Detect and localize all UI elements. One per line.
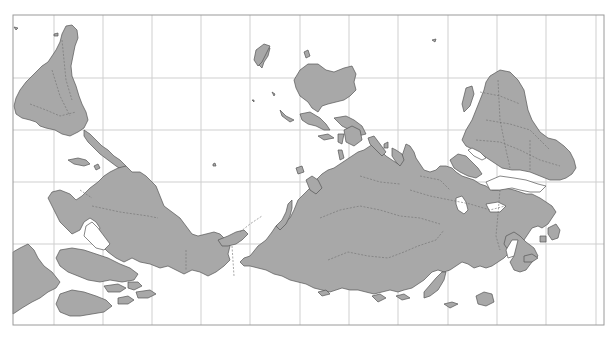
ireland bbox=[540, 236, 546, 242]
world-map[interactable] bbox=[0, 0, 616, 339]
